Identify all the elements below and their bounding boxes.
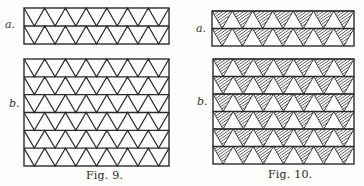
hatched-triangle — [334, 77, 354, 95]
hatched-triangle — [314, 112, 334, 130]
hatched-triangle — [294, 94, 314, 112]
fig10-panel-a — [212, 11, 354, 46]
hatched-triangle — [233, 129, 253, 147]
hatched-triangle — [273, 29, 293, 47]
hatched-triangle — [253, 29, 273, 47]
fig10-panel-b-label: b. — [197, 95, 208, 108]
fig9-panel-b — [24, 59, 169, 166]
hatched-triangle — [233, 77, 253, 95]
hatched-triangle — [273, 129, 293, 147]
fig10-panel-a-label: a. — [196, 22, 206, 35]
hatched-triangle — [293, 11, 313, 29]
hatched-triangle — [334, 112, 354, 130]
hatched-triangle — [232, 11, 252, 29]
hatched-triangle — [233, 112, 253, 130]
hatched-triangle — [294, 129, 314, 147]
zigzag-row — [24, 26, 169, 44]
zigzag-row — [24, 77, 169, 95]
hatched-triangle — [313, 29, 333, 47]
pattern-drawings — [0, 0, 364, 186]
fig9-panel-a — [24, 8, 169, 44]
hatched-triangle — [253, 11, 273, 29]
fig10-panel-b — [213, 59, 354, 164]
hatched-triangle — [334, 94, 354, 112]
illustration-plate: a. b. a. b. Fig. 9. Fig. 10. — [0, 0, 364, 186]
hatched-triangle — [233, 147, 253, 165]
hatched-triangle — [273, 59, 293, 77]
zigzag-row — [24, 113, 169, 131]
fig10-caption: Fig. 10. — [268, 168, 312, 181]
hatched-triangle — [213, 77, 233, 95]
hatched-triangle — [232, 29, 252, 47]
hatched-triangle — [334, 59, 354, 77]
hatched-triangle — [213, 112, 233, 130]
hatched-triangle — [253, 59, 273, 77]
hatched-triangle — [314, 77, 334, 95]
hatched-triangle — [293, 29, 313, 47]
hatched-triangle — [314, 94, 334, 112]
hatched-triangle — [314, 59, 334, 77]
hatched-triangle — [212, 29, 232, 47]
hatched-triangle — [253, 112, 273, 130]
zigzag-row — [24, 8, 169, 26]
hatched-triangle — [273, 112, 293, 130]
hatched-triangle — [212, 11, 232, 29]
hatched-triangle — [233, 94, 253, 112]
zigzag-row — [24, 59, 169, 77]
zigzag-row — [24, 95, 169, 113]
fig9-caption: Fig. 9. — [86, 169, 123, 182]
hatched-triangle — [253, 129, 273, 147]
hatched-triangle — [253, 147, 273, 165]
hatched-triangle — [253, 77, 273, 95]
hatched-triangle — [334, 11, 354, 29]
hatched-triangle — [313, 11, 333, 29]
hatched-triangle — [294, 112, 314, 130]
hatched-triangle — [294, 147, 314, 165]
zigzag-row — [24, 130, 169, 148]
hatched-triangle — [294, 59, 314, 77]
hatched-triangle — [273, 94, 293, 112]
fig9-panel-a-label: a. — [5, 18, 15, 31]
hatched-triangle — [273, 11, 293, 29]
hatched-triangle — [233, 59, 253, 77]
hatched-triangle — [213, 147, 233, 165]
hatched-triangle — [334, 29, 354, 47]
hatched-triangle — [314, 147, 334, 165]
hatched-triangle — [334, 147, 354, 165]
hatched-triangle — [273, 77, 293, 95]
hatched-triangle — [334, 129, 354, 147]
fig9-panel-b-label: b. — [9, 97, 20, 110]
hatched-triangle — [213, 94, 233, 112]
hatched-triangle — [314, 129, 334, 147]
hatched-triangle — [294, 77, 314, 95]
zigzag-row — [24, 148, 169, 166]
hatched-triangle — [273, 147, 293, 165]
hatched-triangle — [213, 129, 233, 147]
hatched-triangle — [213, 59, 233, 77]
hatched-triangle — [253, 94, 273, 112]
